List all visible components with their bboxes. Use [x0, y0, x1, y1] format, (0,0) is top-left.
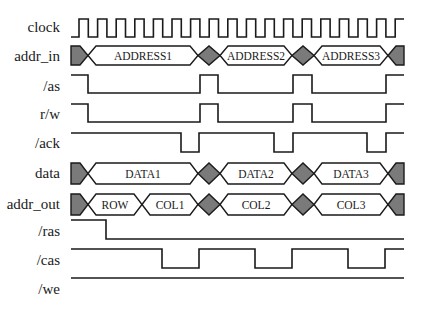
bus-undefined-segment — [292, 163, 314, 184]
bus-value-address2: ADDRESS2 — [227, 50, 285, 62]
bus-value-col3: COL3 — [337, 199, 366, 211]
signal-label-addr_out: addr_out — [7, 196, 61, 212]
bus-value-data2: DATA2 — [238, 168, 274, 180]
signal-label-cas: /cas — [37, 252, 60, 268]
bus-value-col2: COL2 — [242, 199, 271, 211]
waveform-ack — [71, 133, 404, 152]
signal-label-rw: r/w — [40, 106, 60, 122]
waveform-as — [71, 75, 404, 93]
waveform-ras — [71, 220, 404, 239]
signal-label-clock: clock — [28, 19, 61, 35]
bus-undefined-segment — [71, 46, 88, 65]
bus-undefined-segment — [198, 46, 220, 65]
bus-undefined-segment — [71, 194, 88, 215]
bus-undefined-segment — [71, 163, 88, 184]
signal-label-addr_in: addr_in — [14, 48, 60, 64]
bus-value-address3: ADDRESS3 — [322, 50, 380, 62]
waveform-cas — [71, 249, 404, 268]
bus-value-data1: DATA1 — [125, 168, 161, 180]
timing-diagram: clockaddr_in/asr/w/ackdataaddr_out/ras/c… — [0, 0, 421, 312]
bus-undefined-segment — [198, 194, 220, 215]
waveform-rw — [71, 104, 404, 122]
bus-undefined-segment — [292, 46, 314, 65]
waveform-addr_in: ADDRESS1ADDRESS2ADDRESS3 — [71, 46, 404, 65]
signal-labels: clockaddr_in/asr/w/ackdataaddr_out/ras/c… — [7, 19, 61, 297]
signal-label-data: data — [35, 165, 60, 181]
signal-label-ras: /ras — [38, 223, 60, 239]
waveform-clock — [71, 19, 404, 37]
bus-undefined-segment — [388, 194, 404, 215]
bus-undefined-segment — [292, 194, 314, 215]
bus-value-row: ROW — [102, 199, 129, 211]
signal-label-ack: /ack — [35, 135, 60, 151]
signal-waveforms: ADDRESS1ADDRESS2ADDRESS3DATA1DATA2DATA3R… — [71, 19, 404, 278]
bus-value-col1: COL1 — [156, 199, 185, 211]
signal-label-as: /as — [43, 78, 60, 94]
signal-label-we: /we — [38, 281, 60, 297]
waveform-addr_out: ROWCOL1COL2COL3 — [71, 194, 404, 215]
bus-value-address1: ADDRESS1 — [114, 50, 172, 62]
bus-undefined-segment — [198, 163, 220, 184]
bus-value-data3: DATA3 — [333, 168, 369, 180]
bus-undefined-segment — [388, 163, 404, 184]
bus-undefined-segment — [388, 46, 404, 65]
waveform-data: DATA1DATA2DATA3 — [71, 163, 404, 184]
